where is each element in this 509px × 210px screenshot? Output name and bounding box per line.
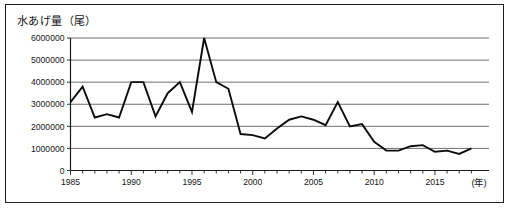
line-chart-plot: 0100000020000003000000400000050000006000… [0,0,509,210]
y-tick-label-4000000: 4000000 [31,77,65,87]
x-tick-label-1990: 1990 [122,177,141,187]
x-axis-unit-label: (年) [471,177,486,188]
y-tick-label-1000000: 1000000 [31,144,65,154]
y-tick-label-5000000: 5000000 [31,55,65,65]
x-tick-label-2015: 2015 [425,177,444,187]
x-tick-label-2010: 2010 [365,177,384,187]
data-series-line [71,38,472,154]
x-tick-label-1985: 1985 [61,177,80,187]
y-tick-label-3000000: 3000000 [31,99,65,109]
y-tick-label-2000000: 2000000 [31,122,65,132]
y-tick-label-0: 0 [60,166,65,176]
x-tick-label-2000: 2000 [243,177,262,187]
x-tick-label-2005: 2005 [304,177,323,187]
chart-figure: 水あげ量（尾） 01000000200000030000004000000500… [0,0,509,210]
x-tick-label-1995: 1995 [182,177,201,187]
y-tick-label-6000000: 6000000 [31,33,65,43]
